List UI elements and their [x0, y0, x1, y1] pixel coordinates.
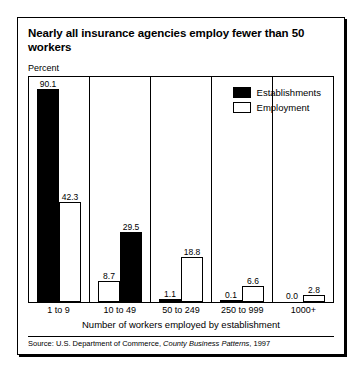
bar-group: 8.729.5	[90, 77, 151, 302]
bar-value-label: 42.3	[62, 192, 79, 202]
chart-figure: Nearly all insurance agencies employ few…	[17, 17, 345, 355]
bar: 8.7	[98, 281, 120, 302]
x-axis-title: Number of workers employed by establishm…	[28, 319, 334, 330]
x-tick-label: 50 to 249	[150, 305, 211, 315]
bar-value-label: 0.0	[286, 291, 298, 301]
bar-group: 1.118.8	[151, 77, 212, 302]
bar-value-label: 1.1	[164, 289, 176, 299]
bar-slot: 1.1	[159, 77, 181, 302]
bar-slot: 29.5	[120, 77, 142, 302]
source-divider	[28, 336, 334, 337]
bar-slot: 90.1	[37, 77, 59, 302]
bar-value-label: 90.1	[40, 79, 57, 89]
bar-group: 90.142.3	[29, 77, 90, 302]
bar-slot: 6.6	[242, 77, 264, 302]
source-note: Source: U.S. Department of Commerce, Cou…	[28, 339, 338, 348]
x-tick-label: 1000+	[273, 305, 334, 315]
plot-area: Establishments Employment 90.142.38.729.…	[28, 76, 334, 303]
bar: 18.8	[181, 257, 203, 302]
x-tick-label: 10 to 49	[89, 305, 150, 315]
bar-value-label: 18.8	[184, 247, 201, 257]
x-axis-tick-labels: 1 to 910 to 4950 to 249250 to 9991000+	[28, 305, 334, 315]
source-prefix: Source: U.S. Department of Commerce,	[28, 339, 163, 348]
bar-slot: 0.0	[281, 77, 303, 302]
bar: 2.8	[303, 295, 325, 302]
bar-group: 0.02.8	[273, 77, 333, 302]
bar: 1.1	[159, 299, 181, 302]
bar-value-label: 2.8	[308, 285, 320, 295]
bar-value-label: 8.7	[103, 271, 115, 281]
bar: 42.3	[59, 202, 81, 302]
bar: 0.1	[220, 300, 242, 302]
chart-title: Nearly all insurance agencies employ few…	[28, 26, 328, 54]
bar-groups: 90.142.38.729.51.118.80.16.60.02.8	[29, 77, 333, 302]
source-suffix: , 1997	[249, 339, 270, 348]
bar: 90.1	[37, 89, 59, 302]
bar: 29.5	[120, 232, 142, 302]
bar-slot: 2.8	[303, 77, 325, 302]
bar-slot: 8.7	[98, 77, 120, 302]
y-axis-label: Percent	[28, 63, 59, 73]
bar-slot: 42.3	[59, 77, 81, 302]
bar-slot: 0.1	[220, 77, 242, 302]
bar-value-label: 29.5	[123, 222, 140, 232]
bar: 6.6	[242, 286, 264, 302]
bar-value-label: 0.1	[225, 290, 237, 300]
bar-value-label: 6.6	[247, 276, 259, 286]
bar-slot: 18.8	[181, 77, 203, 302]
source-italic-title: County Business Patterns	[163, 339, 249, 348]
bar-group: 0.16.6	[212, 77, 273, 302]
x-tick-label: 250 to 999	[212, 305, 273, 315]
x-tick-label: 1 to 9	[28, 305, 89, 315]
